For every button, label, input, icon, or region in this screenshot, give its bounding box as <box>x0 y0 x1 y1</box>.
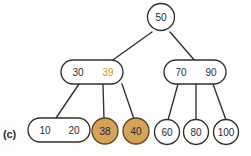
node-internal-right-key-90: 90 <box>205 67 217 78</box>
node-leaf-80[interactable]: 80 <box>184 120 209 145</box>
node-leaf-60[interactable]: 60 <box>155 120 180 145</box>
node-root-key-50: 50 <box>155 12 167 23</box>
node-internal-left-shape <box>61 60 123 84</box>
node-root-50[interactable]: 50 <box>148 4 175 31</box>
btree-figure: 50 30 39 70 90 10 20 38 40 <box>0 0 251 156</box>
node-leaf-40[interactable]: 40 <box>123 118 149 144</box>
node-internal-left-key-30: 30 <box>72 67 84 78</box>
node-internal-right-key-70: 70 <box>175 67 187 78</box>
node-internal-right[interactable]: 70 90 <box>164 60 226 84</box>
edge-left-to-leaf-38 <box>103 84 104 119</box>
node-leaf-key-60: 60 <box>161 127 173 138</box>
node-internal-left[interactable]: 30 39 <box>61 60 123 84</box>
edge-right-to-leaf-100 <box>213 84 226 120</box>
node-leaf-key-20: 20 <box>68 125 80 136</box>
edge-root-to-internal-right <box>170 32 196 62</box>
edge-left-to-leaf-40 <box>122 84 134 119</box>
node-leaf-key-40: 40 <box>130 126 142 137</box>
node-leaf-key-80: 80 <box>190 127 202 138</box>
tree-canvas: 50 30 39 70 90 10 20 38 40 <box>0 0 251 156</box>
node-leaf-key-38: 38 <box>99 126 111 137</box>
node-leaf-10-20-shape <box>28 118 90 142</box>
edge-root-to-internal-left <box>110 32 152 62</box>
panel-label: (c) <box>3 128 16 140</box>
node-leaf-100[interactable]: 100 <box>214 120 239 145</box>
node-leaf-10-20[interactable]: 10 20 <box>28 118 90 142</box>
node-internal-left-key-39: 39 <box>102 67 114 78</box>
node-internal-right-shape <box>164 60 226 84</box>
node-leaf-key-10: 10 <box>39 125 51 136</box>
edge-left-to-leaf-10-20 <box>56 84 79 118</box>
node-leaf-38[interactable]: 38 <box>92 118 118 144</box>
node-leaf-key-100: 100 <box>218 127 235 138</box>
edge-right-to-leaf-60 <box>168 84 178 120</box>
